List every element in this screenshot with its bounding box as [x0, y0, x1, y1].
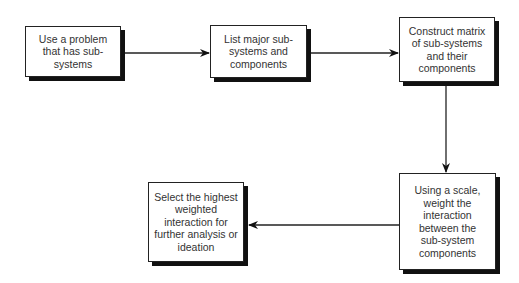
step5-label: Select the highest weighted interaction …	[153, 191, 239, 254]
step4-box: Using a scale, weight the interaction be…	[399, 173, 496, 270]
step1-label: Use a problem that has sub-systems	[33, 33, 113, 71]
step5-box: Select the highest weighted interaction …	[148, 182, 244, 262]
step3-box: Construct matrix of sub-systems and thei…	[399, 17, 495, 82]
step2-box: List major sub-systems and components	[210, 25, 307, 78]
step3-label: Construct matrix of sub-systems and thei…	[406, 25, 488, 75]
step2-label: List major sub-systems and components	[215, 33, 302, 71]
step1-box: Use a problem that has sub-systems	[25, 26, 121, 77]
step4-label: Using a scale, weight the interaction be…	[412, 184, 484, 259]
